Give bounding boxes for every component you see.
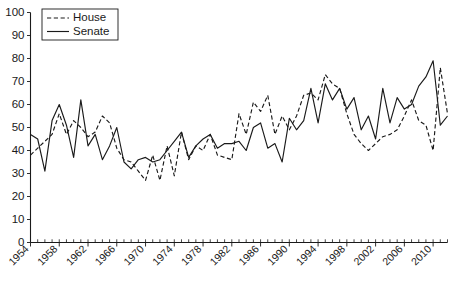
x-tick-label: 1978: [178, 242, 203, 267]
y-tick-label: 80: [12, 52, 25, 64]
x-tick-label: 1986: [236, 242, 261, 267]
y-axis: 0102030405060708090100: [5, 6, 30, 248]
x-tick-label: 2010: [409, 242, 434, 267]
y-tick-label: 30: [12, 167, 25, 179]
x-tick-label: 2002: [351, 242, 376, 267]
x-tick-label: 1962: [63, 242, 88, 267]
chart-container: 0102030405060708090100 19541958196219661…: [0, 0, 460, 293]
line-chart: 0102030405060708090100 19541958196219661…: [0, 0, 460, 293]
y-tick-label: 20: [12, 190, 25, 202]
y-tick-label: 60: [12, 98, 25, 110]
y-tick-label: 70: [12, 75, 25, 87]
y-tick-label: 40: [12, 144, 25, 156]
plot-series: [31, 61, 448, 181]
x-tick-label: 1998: [322, 242, 347, 267]
x-axis-ticks: [31, 243, 434, 247]
y-tick-label: 90: [12, 29, 25, 41]
y-tick-label: 100: [5, 6, 24, 18]
legend-label-house: House: [73, 11, 106, 23]
x-tick-label: 1954: [6, 242, 31, 267]
x-tick-label: 2006: [380, 242, 405, 267]
x-tick-label: 1990: [265, 242, 290, 267]
y-axis-tick-labels: 0102030405060708090100: [5, 6, 24, 248]
x-tick-label: 1958: [35, 242, 60, 267]
x-axis-tick-labels: 1954195819621966197019741978198219861990…: [6, 242, 434, 267]
x-tick-label: 1966: [92, 242, 117, 267]
legend-label-senate: Senate: [73, 25, 109, 37]
x-tick-label: 1994: [293, 242, 318, 267]
y-tick-label: 50: [12, 121, 25, 133]
legend: HouseSenate: [42, 9, 118, 40]
x-tick-label: 1982: [207, 242, 232, 267]
y-tick-label: 10: [12, 213, 25, 225]
x-axis: 1954195819621966197019741978198219861990…: [6, 239, 448, 267]
x-tick-label: 1970: [121, 242, 146, 267]
x-tick-label: 1974: [150, 242, 175, 267]
series-line-house: [31, 68, 448, 181]
